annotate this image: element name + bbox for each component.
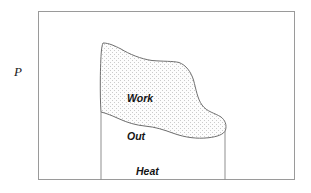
work-out-region-blob (100, 43, 226, 138)
work-out-label-line1: Work (127, 92, 153, 105)
heat-out-label: Heat Out (136, 140, 159, 193)
pv-diagram-figure: P Work Out Heat Out (0, 0, 311, 193)
heat-out-label-line1: Heat (136, 165, 159, 178)
y-axis-label-pressure: P (14, 64, 22, 80)
